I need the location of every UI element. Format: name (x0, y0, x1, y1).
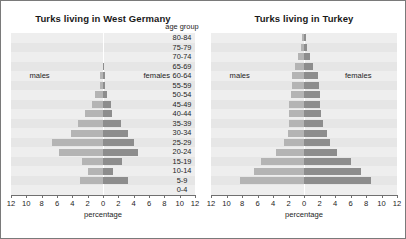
x-axis-tick (118, 195, 119, 198)
bar-female (304, 158, 351, 165)
x-axis-tick-label: 10 (222, 199, 230, 208)
bar-female (304, 139, 330, 146)
bar-female (304, 34, 306, 41)
population-pyramid-figure: Turks living in West Germany malesfemale… (0, 0, 406, 239)
bar-female (304, 101, 320, 108)
bar-male (78, 120, 103, 127)
x-axis-tick-label: 10 (377, 199, 385, 208)
x-axis-tick-label: 2 (86, 199, 90, 208)
x-axis-tick-label: 8 (40, 199, 44, 208)
age-group-label: 60-64 (159, 71, 205, 81)
age-group-label: 10-14 (159, 166, 205, 176)
age-group-label: 80-84 (159, 33, 205, 43)
bar-female (103, 63, 104, 70)
x-axis-tick (351, 195, 352, 198)
x-axis-right: percentage 12108642024681012 (211, 195, 397, 229)
bar-female (304, 91, 320, 98)
x-axis-tick (397, 195, 398, 198)
bar-male (92, 101, 104, 108)
bar-female (103, 120, 121, 127)
x-axis-tick-label: 4 (333, 199, 337, 208)
age-group-axis: age group 80-8475-7970-7465-6960-6455-59… (159, 9, 205, 209)
x-axis-tick (11, 195, 12, 198)
x-axis-tick (366, 195, 367, 198)
bar-female (304, 168, 361, 175)
x-axis-tick-label: 12 (207, 199, 215, 208)
x-axis-tick (211, 195, 212, 198)
x-axis-tick-label: 12 (393, 199, 401, 208)
x-axis-tick (103, 195, 104, 198)
age-group-label: 5-9 (159, 176, 205, 186)
x-axis-tick-label: 6 (55, 199, 59, 208)
bar-female (103, 130, 128, 137)
x-axis-tick-label: 6 (147, 199, 151, 208)
age-group-label: 30-34 (159, 128, 205, 138)
x-axis-tick (26, 195, 27, 198)
age-group-label: 35-39 (159, 119, 205, 129)
x-axis-title-right: percentage (211, 210, 397, 219)
bar-female (103, 101, 111, 108)
bar-female (304, 130, 327, 137)
age-group-label: 70-74 (159, 52, 205, 62)
bar-male (284, 139, 304, 146)
age-group-label: 0-4 (159, 185, 205, 195)
chart-panel-turkey: Turks living in Turkey malesfemales perc… (205, 9, 403, 232)
chart-title-right: Turks living in Turkey (205, 13, 403, 24)
x-axis-tick (335, 195, 336, 198)
bar-male (288, 130, 304, 137)
bar-female (103, 82, 105, 89)
bar-female (304, 82, 319, 89)
x-axis-title-left: percentage (11, 210, 195, 219)
bar-female (304, 53, 310, 60)
x-axis-tick (57, 195, 58, 198)
age-group-label: 55-59 (159, 81, 205, 91)
plot-area-right: malesfemales (211, 33, 397, 195)
x-axis-tick (42, 195, 43, 198)
bar-male (80, 177, 103, 184)
x-axis-tick-label: 2 (116, 199, 120, 208)
series-label-females: females (345, 71, 372, 80)
x-axis-tick-label: 0 (302, 199, 306, 208)
age-group-label: 20-24 (159, 147, 205, 157)
x-axis-tick-label: 2 (317, 199, 321, 208)
x-axis-tick-label: 4 (132, 199, 136, 208)
bar-female (304, 44, 307, 51)
bar-male (85, 110, 103, 117)
x-axis-tick-label: 0 (101, 199, 105, 208)
bar-male (261, 158, 304, 165)
bar-female (103, 139, 134, 146)
bar-male (291, 91, 304, 98)
age-group-label: 75-79 (159, 43, 205, 53)
x-axis-tick-label: 8 (240, 199, 244, 208)
x-axis-tick (258, 195, 259, 198)
x-axis-tick-label: 6 (348, 199, 352, 208)
x-axis-tick (88, 195, 89, 198)
bar-female (304, 72, 318, 79)
bar-male (289, 110, 305, 117)
x-axis-tick-label: 2 (286, 199, 290, 208)
bar-female (103, 168, 113, 175)
age-group-label: 15-19 (159, 157, 205, 167)
bar-female (304, 177, 371, 184)
x-axis-tick-label: 12 (7, 199, 15, 208)
series-label-males: males (230, 71, 250, 80)
bar-male (254, 168, 304, 175)
bar-male (240, 177, 304, 184)
bar-female (304, 120, 323, 127)
age-group-label: 45-49 (159, 100, 205, 110)
age-axis-title: age group (159, 22, 205, 31)
age-group-label: 40-44 (159, 109, 205, 119)
age-group-label: 65-69 (159, 62, 205, 72)
bar-female (103, 149, 138, 156)
x-axis-tick (227, 195, 228, 198)
bar-male (82, 158, 103, 165)
bar-male (292, 82, 304, 89)
x-axis-tick (382, 195, 383, 198)
bar-male (88, 168, 103, 175)
bar-male (289, 120, 305, 127)
x-axis-tick (273, 195, 274, 198)
age-group-label: 25-29 (159, 138, 205, 148)
x-axis-tick (304, 195, 305, 198)
bar-female (103, 110, 112, 117)
bar-female (103, 177, 128, 184)
